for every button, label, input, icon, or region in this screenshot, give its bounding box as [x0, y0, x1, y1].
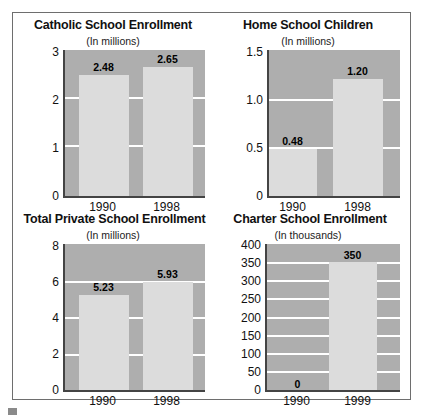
chart-title-charter: Charter School Enrollment [213, 213, 407, 226]
y-tick-label: 1 [13, 143, 59, 153]
plot-area-total-private [65, 244, 205, 390]
footer-caption [8, 406, 423, 418]
chart-title-home-school: Home School Children [213, 19, 403, 32]
chart-title-total-private: Total Private School Enrollment [13, 213, 216, 226]
bar-value-label: 0.48 [269, 136, 317, 147]
chart-panel-total-private: Total Private School Enrollment (In mill… [13, 209, 213, 399]
bar-1990 [79, 295, 129, 390]
y-tick-label: 400 [213, 240, 261, 250]
bar-value-label: 2.65 [143, 54, 193, 65]
y-tick-label: 6 [13, 277, 59, 287]
figure-frame: Catholic School Enrollment (In millions)… [12, 12, 411, 400]
y-tick-label: 1.0 [213, 95, 263, 105]
square-bullet-icon [8, 408, 17, 415]
x-axis-line [63, 196, 205, 198]
plot-area-charter [267, 244, 400, 390]
bar-1990 [79, 75, 129, 196]
bar-1990 [269, 149, 317, 196]
bar-1998 [143, 67, 193, 196]
chart-panel-catholic: Catholic School Enrollment (In millions)… [13, 15, 213, 205]
y-tick-label: 50 [213, 367, 261, 377]
bar-value-label: 1.20 [333, 66, 383, 77]
y-tick-label: 2 [13, 349, 59, 359]
y-tick-label: 150 [213, 331, 261, 341]
y-tick-label: 200 [213, 313, 261, 323]
y-tick-label: 2 [13, 95, 59, 105]
chart-panel-charter: Charter School Enrollment (In thousands)… [213, 209, 412, 399]
y-tick-label: 250 [213, 294, 261, 304]
bar-value-label: 2.48 [79, 62, 129, 73]
y-tick-label: 4 [13, 313, 59, 323]
bar-1999 [329, 262, 377, 390]
chart-panel-home-school: Home School Children (In millions) 1.5 1… [213, 15, 412, 205]
x-axis-line [267, 196, 400, 198]
bar-value-label: 5.23 [79, 282, 129, 293]
y-tick-label: 300 [213, 276, 261, 286]
y-tick-label: 0 [13, 385, 59, 395]
bar-value-label: 350 [329, 250, 377, 261]
y-tick-label: 1.5 [213, 47, 263, 57]
y-tick-label: 0 [13, 191, 59, 201]
y-tick-label: 0.5 [213, 143, 263, 153]
chart-subtitle-total-private: (In millions) [13, 229, 213, 241]
x-axis-line [265, 390, 400, 392]
bar-value-label: 5.93 [143, 269, 193, 280]
bar-value-label: 0 [267, 379, 329, 390]
y-tick-label: 100 [213, 349, 261, 359]
chart-title-catholic: Catholic School Enrollment [13, 19, 213, 32]
y-tick-label: 0 [213, 191, 263, 201]
x-axis-line [63, 390, 205, 392]
y-tick-label: 350 [213, 258, 261, 268]
chart-subtitle-catholic: (In millions) [13, 35, 213, 47]
y-tick-label: 8 [13, 241, 59, 251]
bar-1998 [333, 79, 383, 196]
bar-1998 [143, 282, 193, 390]
y-tick-label: 0 [213, 385, 261, 395]
chart-subtitle-home-school: (In millions) [213, 35, 403, 47]
y-tick-label: 3 [13, 47, 59, 57]
